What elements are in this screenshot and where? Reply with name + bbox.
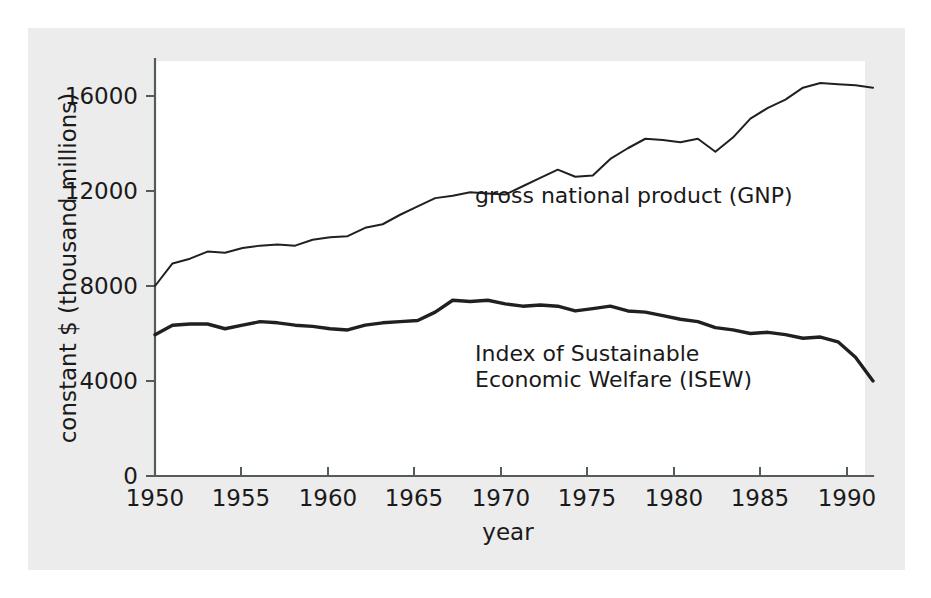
x-tick-label-1980: 1980 — [645, 485, 704, 511]
x-axis-tick-labels: 1950 1955 1960 1965 1970 1975 1980 1985 … — [126, 485, 877, 511]
x-tick-label-1950: 1950 — [126, 485, 185, 511]
x-tick-label-1965: 1965 — [385, 485, 444, 511]
annotation-isew-line1: Index of Sustainable — [475, 341, 699, 366]
y-axis-ticks — [146, 96, 155, 476]
y-tick-label-4000: 4000 — [79, 368, 138, 394]
x-tick-label-1990: 1990 — [818, 485, 877, 511]
x-tick-label-1960: 1960 — [299, 485, 358, 511]
figure-panel: 16000 12000 8000 4000 0 1950 — [28, 28, 905, 570]
x-tick-label-1975: 1975 — [558, 485, 617, 511]
y-tick-label-8000: 8000 — [79, 273, 138, 299]
plot-area-background — [155, 61, 865, 476]
figure-root: 16000 12000 8000 4000 0 1950 — [0, 0, 931, 598]
line-chart: 16000 12000 8000 4000 0 1950 — [28, 28, 905, 570]
annotation-isew-line2: Economic Welfare (ISEW) — [475, 367, 752, 392]
annotation-gnp: gross national product (GNP) — [475, 183, 793, 208]
y-axis-title: constant $ (thousand millions) — [55, 93, 81, 444]
x-tick-label-1985: 1985 — [731, 485, 790, 511]
x-tick-label-1970: 1970 — [472, 485, 531, 511]
x-axis-title: year — [482, 519, 534, 545]
x-tick-label-1955: 1955 — [212, 485, 271, 511]
